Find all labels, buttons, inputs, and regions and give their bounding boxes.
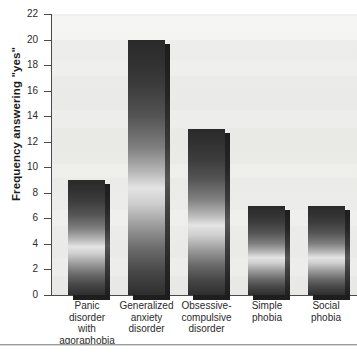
bar-face (188, 129, 225, 295)
y-tick-label-14: 14 (0, 110, 38, 121)
cat-line: Simple (233, 300, 301, 312)
y-tick-label-12: 12 (0, 136, 38, 147)
y-tick-label-6: 6 (0, 212, 38, 223)
cat-line: phobia (233, 312, 301, 324)
bar-face (68, 180, 105, 295)
y-tick-label-20: 20 (0, 34, 38, 45)
y-tick-label-16: 16 (0, 85, 38, 96)
x-category-label-social-phobia: Social phobia (292, 300, 357, 323)
bar-side-shadow (285, 210, 290, 300)
bar-generalized-anxiety-disorder (128, 40, 165, 295)
bar-obsessive-compulsive-disorder (188, 129, 225, 295)
y-tick-6 (44, 218, 52, 219)
cat-line: Social (292, 300, 357, 312)
y-tick-label-10: 10 (0, 161, 38, 172)
y-tick-2 (44, 269, 52, 270)
y-tick-label-4: 4 (0, 238, 38, 249)
bar-side-shadow (225, 133, 230, 300)
y-tick-0 (44, 295, 52, 296)
bar-side-shadow (105, 184, 110, 300)
y-tick-22 (44, 14, 52, 15)
bar-social-phobia (308, 206, 345, 295)
y-tick-label-2: 2 (0, 263, 38, 274)
y-tick-18 (44, 65, 52, 66)
y-axis-line (51, 14, 52, 296)
y-tick-14 (44, 116, 52, 117)
y-tick-label-0: 0 (0, 289, 38, 300)
cat-line: disorder (170, 323, 243, 335)
y-tick-4 (44, 244, 52, 245)
bar-chart-figure: Frequency answering "yes" 22 20 18 16 14… (0, 0, 357, 354)
bar-panic-disorder-with-agoraphobia (68, 180, 105, 295)
y-tick-12 (44, 142, 52, 143)
bar-face (128, 40, 165, 295)
y-tick-16 (44, 91, 52, 92)
y-tick-label-8: 8 (0, 187, 38, 198)
y-tick-label-22: 22 (0, 8, 38, 19)
bar-side-shadow (165, 44, 170, 300)
y-tick-8 (44, 193, 52, 194)
y-tick-20 (44, 40, 52, 41)
bar-simple-phobia (248, 206, 285, 295)
bar-side-shadow (345, 210, 350, 300)
cat-line: phobia (292, 312, 357, 324)
bar-face (248, 206, 285, 295)
x-category-label-simple-phobia: Simple phobia (233, 300, 301, 323)
y-tick-10 (44, 167, 52, 168)
bar-face (308, 206, 345, 295)
y-tick-label-18: 18 (0, 59, 38, 70)
page-bottom-margin (0, 346, 357, 354)
